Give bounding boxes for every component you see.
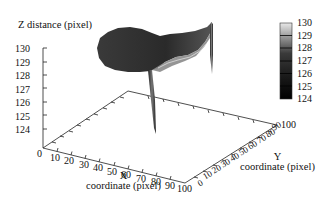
x-axis-label: X coordinate (pixel)	[86, 171, 161, 191]
z-axis	[43, 48, 47, 148]
x-tick: 100	[177, 183, 192, 194]
y-tick: 100	[281, 119, 296, 130]
x-tick: 90	[165, 180, 175, 191]
colorbar-tick: 129	[297, 30, 312, 43]
colorbar-tick-labels: 130 129 128 127 126 125 124	[297, 17, 312, 106]
z-axis-label: Z distance (pixel)	[18, 19, 92, 30]
colorbar-tick: 126	[297, 68, 312, 81]
z-tick: 128	[15, 69, 30, 83]
z-tick: 129	[15, 56, 30, 70]
x-tick: 20	[64, 155, 74, 166]
z-tick: 126	[15, 96, 30, 110]
z-tick: 127	[15, 83, 30, 97]
z-tick: 124	[15, 123, 30, 137]
y-axis-label-text: coordinate (pixel)	[240, 162, 315, 172]
colorbar-tick: 130	[297, 17, 312, 30]
z-tick-labels: 130 129 128 127 126 125 124	[15, 42, 30, 137]
x-tick: 0	[37, 148, 42, 159]
z-tick: 130	[15, 42, 30, 56]
surface-plot	[0, 0, 332, 203]
colorbar-tick: 127	[297, 55, 312, 68]
x-axis-label-text: coordinate (pixel)	[86, 181, 161, 191]
z-tick: 125	[15, 110, 30, 124]
colorbar	[280, 23, 292, 99]
colorbar-tick: 125	[297, 81, 312, 94]
surface	[97, 22, 213, 134]
x-tick: 30	[79, 159, 89, 170]
y-axis-label: Y coordinate (pixel)	[240, 152, 315, 172]
colorbar-tick: 124	[297, 93, 312, 106]
colorbar-tick: 128	[297, 42, 312, 55]
x-tick: 10	[50, 152, 60, 163]
